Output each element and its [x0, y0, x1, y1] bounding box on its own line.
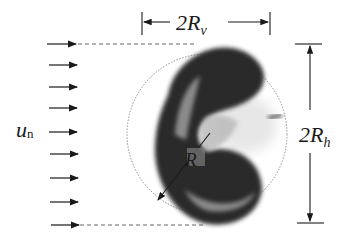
radius-label: R — [184, 149, 197, 170]
flow-arrows — [47, 44, 79, 225]
flow-velocity-label: un — [16, 117, 34, 142]
droplet-shape — [155, 48, 282, 225]
droplet-diagram: R 2Rv 2Rh un — [0, 0, 350, 243]
vertical-extent-label: 2Rv — [176, 10, 207, 38]
horizontal-extent-label: 2Rh — [299, 122, 330, 150]
